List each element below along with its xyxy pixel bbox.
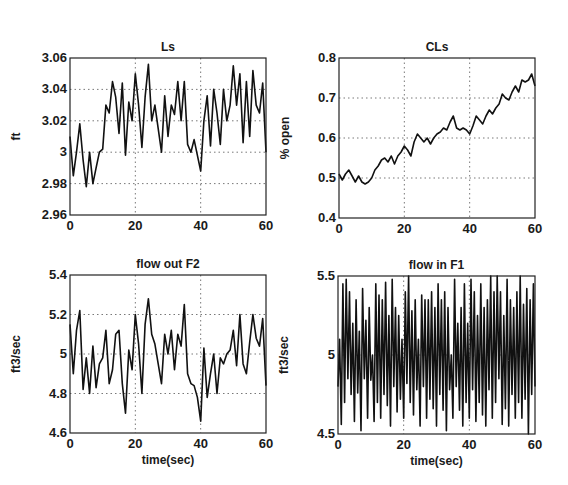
- y-tick-label: 5.4: [49, 267, 68, 282]
- chart-canvas: Ls ft 02040602.962.9833.023.043.06 CLs %…: [0, 0, 568, 485]
- subplot-flow-in-f1: flow in F1 ft3/sec time(sec) 02040604.55…: [277, 258, 542, 468]
- x-tick-label: 0: [66, 436, 73, 451]
- x-tick-label: 40: [193, 436, 207, 451]
- x-axis-label: time(sec): [142, 453, 195, 467]
- x-tick-label: 0: [334, 437, 341, 452]
- tick-labels: 02040602.962.9833.023.043.06: [42, 50, 274, 233]
- subplot-title: flow out F2: [136, 257, 200, 271]
- data-line-cls: [339, 74, 535, 184]
- y-tick-label: 5.5: [317, 268, 335, 283]
- y-axis-label: ft3/sec: [9, 335, 23, 373]
- subplot-ls: Ls ft 02040602.962.9833.023.043.06: [9, 40, 273, 233]
- x-tick-label: 60: [259, 218, 273, 233]
- x-axis-label: time(sec): [410, 454, 463, 468]
- x-tick-label: 60: [259, 436, 273, 451]
- y-tick-label: 2.98: [42, 176, 67, 191]
- grid-lines: [339, 58, 535, 218]
- subplot-title: CLs: [426, 40, 449, 54]
- x-tick-label: 20: [128, 436, 142, 451]
- data-line-flow-in-f1: [338, 276, 535, 434]
- x-tick-label: 60: [528, 221, 542, 236]
- subplot-flow-out-f2: flow out F2 ft3/sec time(sec) 02040604.6…: [9, 257, 273, 467]
- y-tick-label: 3.06: [42, 50, 67, 65]
- x-tick-label: 60: [528, 437, 542, 452]
- y-tick-label: 5.2: [49, 307, 67, 322]
- y-tick-label: 3.04: [42, 81, 68, 96]
- x-tick-label: 40: [462, 221, 476, 236]
- x-tick-label: 0: [66, 218, 73, 233]
- x-tick-label: 20: [397, 221, 411, 236]
- figure: Ls ft 02040602.962.9833.023.043.06 CLs %…: [0, 0, 568, 485]
- y-axis-label: % open: [278, 117, 292, 160]
- data-line-ls: [70, 64, 266, 186]
- y-tick-label: 0.6: [318, 130, 336, 145]
- x-tick-label: 0: [335, 221, 342, 236]
- y-tick-label: 4.6: [49, 425, 67, 440]
- x-tick-label: 20: [396, 437, 410, 452]
- y-tick-label: 4.8: [49, 386, 67, 401]
- y-axis-label: ft3/sec: [277, 336, 291, 374]
- data-line-flow-out-f2: [70, 299, 266, 421]
- y-tick-label: 3: [60, 144, 67, 159]
- y-tick-label: 2.96: [42, 207, 67, 222]
- y-tick-label: 5: [328, 347, 335, 362]
- y-tick-label: 0.4: [318, 210, 337, 225]
- y-tick-label: 5: [60, 346, 67, 361]
- y-tick-label: 0.8: [318, 50, 336, 65]
- y-tick-label: 4.5: [317, 426, 335, 441]
- x-tick-label: 20: [128, 218, 142, 233]
- x-tick-label: 40: [193, 218, 207, 233]
- subplot-cls: CLs % open 02040600.40.50.60.70.8: [278, 40, 542, 236]
- y-tick-label: 0.7: [318, 90, 336, 105]
- subplot-title: flow in F1: [409, 258, 465, 272]
- x-tick-label: 40: [462, 437, 476, 452]
- y-axis-label: ft: [9, 133, 23, 141]
- subplot-title: Ls: [161, 40, 175, 54]
- y-tick-label: 0.5: [318, 170, 336, 185]
- y-tick-label: 3.02: [42, 113, 67, 128]
